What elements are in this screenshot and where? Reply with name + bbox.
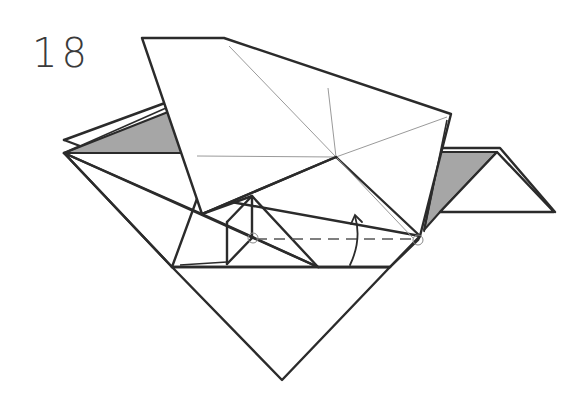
upper-flap <box>142 38 451 236</box>
bottom-triangle-flap <box>172 267 390 380</box>
origami-diagram <box>0 0 585 406</box>
inner-triangle-diag2 <box>227 238 252 264</box>
base-flap-sliver <box>180 262 227 265</box>
